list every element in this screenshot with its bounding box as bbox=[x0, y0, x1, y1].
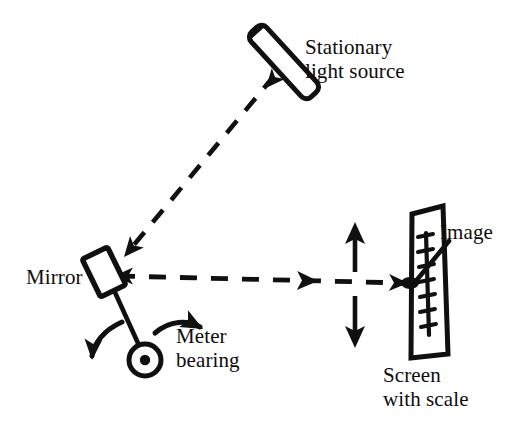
label-meter-bearing: Meter bearing bbox=[176, 325, 240, 372]
meter-bearing bbox=[129, 344, 161, 376]
mirror-plate bbox=[82, 247, 126, 297]
spot-travel-arrows bbox=[345, 222, 365, 348]
reflected-beam-arrowhead-mid bbox=[297, 271, 318, 291]
label-mirror: Mirror bbox=[26, 266, 83, 290]
label-screen-with-scale: Screen with scale bbox=[383, 364, 469, 411]
incident-beam bbox=[117, 68, 285, 263]
label-stationary-light-source: Stationary light source bbox=[305, 36, 405, 83]
incident-beam-line bbox=[128, 76, 274, 252]
reflected-beam-line bbox=[118, 276, 404, 283]
label-image: Image bbox=[440, 221, 493, 245]
mirror-assembly bbox=[82, 247, 142, 352]
reflected-beam bbox=[114, 268, 408, 292]
bearing-axis-dot bbox=[140, 355, 150, 365]
diagram-canvas bbox=[0, 0, 530, 427]
rotation-arrow-left-head bbox=[83, 338, 102, 360]
optical-lever-diagram: Stationary light source Mirror Meter bea… bbox=[0, 0, 530, 427]
mirror-face bbox=[82, 247, 126, 297]
